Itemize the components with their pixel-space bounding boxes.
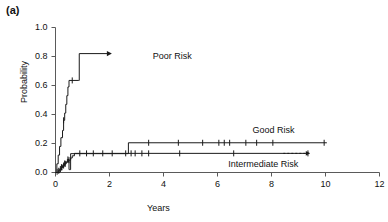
y-tick-label-0.2: 0.2	[22, 138, 48, 148]
x-tick-label-4: 4	[154, 179, 174, 189]
series-label-poor-risk: Poor Risk	[153, 51, 192, 61]
figure-panel-a: (a) Probability Years 0.00.20.40.60.81.0…	[0, 0, 388, 222]
x-tick-label-6: 6	[208, 179, 228, 189]
y-tick-label-0.4: 0.4	[22, 109, 48, 119]
y-tick-label-0.8: 0.8	[22, 51, 48, 61]
y-tick-label-0.6: 0.6	[22, 80, 48, 90]
x-tick-label-0: 0	[46, 179, 66, 189]
x-tick-label-2: 2	[100, 179, 120, 189]
y-tick-label-1.0: 1.0	[22, 22, 48, 32]
kaplan-meier-plot	[0, 0, 388, 222]
x-tick-label-10: 10	[316, 179, 336, 189]
series-label-intermediate-risk: Intermediate Risk	[228, 159, 298, 169]
x-tick-label-8: 8	[262, 179, 282, 189]
y-tick-label-0.0: 0.0	[22, 167, 48, 177]
x-tick-label-12: 12	[370, 179, 388, 189]
series-label-good-risk: Good Risk	[253, 125, 295, 135]
arrow-head-poor-risk	[107, 51, 112, 56]
